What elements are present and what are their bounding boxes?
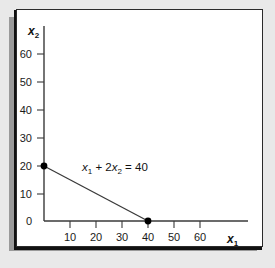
x-tick-label-60: 60 bbox=[194, 231, 206, 243]
y-axis-label-sub: 2 bbox=[35, 31, 40, 40]
data-point-40-0 bbox=[145, 218, 152, 225]
y-tick-label-60: 60 bbox=[20, 48, 32, 60]
y-tick-label-30: 30 bbox=[20, 132, 32, 144]
y-axis-label: x2 bbox=[27, 24, 40, 40]
data-point-0-20 bbox=[41, 163, 48, 170]
y-tick-label-10: 10 bbox=[20, 188, 32, 200]
y-tick-label-40: 40 bbox=[20, 104, 32, 116]
figure-root: 10 20 30 40 50 60 0 10 20 30 40 50 60 x2… bbox=[0, 0, 275, 268]
x-axis-label: x1 bbox=[226, 232, 239, 247]
equation-equals-40: = 40 bbox=[122, 161, 148, 173]
equation-plus-2: + 2 bbox=[92, 161, 112, 173]
y-tick-label-20: 20 bbox=[20, 160, 32, 172]
origin-label: 0 bbox=[26, 215, 32, 227]
x-tick-label-10: 10 bbox=[64, 231, 76, 243]
x-tick-label-40: 40 bbox=[142, 231, 154, 243]
x-tick-label-30: 30 bbox=[116, 231, 128, 243]
equation-annotation: x1 + 2x2 = 40 bbox=[81, 161, 148, 176]
y-tick-label-50: 50 bbox=[20, 76, 32, 88]
x-tick-label-20: 20 bbox=[90, 231, 102, 243]
constraint-line bbox=[44, 166, 148, 221]
plot-area: 10 20 30 40 50 60 0 10 20 30 40 50 60 x2… bbox=[16, 9, 263, 247]
x-axis-label-sub: 1 bbox=[234, 239, 239, 247]
x-tick-label-50: 50 bbox=[168, 231, 180, 243]
